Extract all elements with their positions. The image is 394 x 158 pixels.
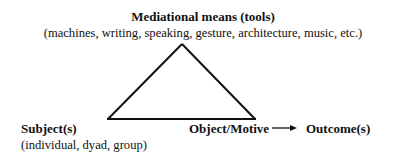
tools-title: Mediational means (tools)	[0, 10, 394, 23]
subject-subtitle: (individual, dyad, group)	[21, 139, 147, 152]
outcome-title: Outcome(s)	[306, 122, 370, 135]
object-motive-title: Object/Motive	[189, 122, 269, 135]
arrow-head-icon	[290, 125, 297, 131]
edge-tools-to-object	[182, 44, 255, 119]
subject-title: Subject(s)	[21, 122, 77, 135]
edge-tools-to-subject	[108, 44, 182, 119]
tools-subtitle: (machines, writing, speaking, gesture, a…	[0, 27, 394, 40]
